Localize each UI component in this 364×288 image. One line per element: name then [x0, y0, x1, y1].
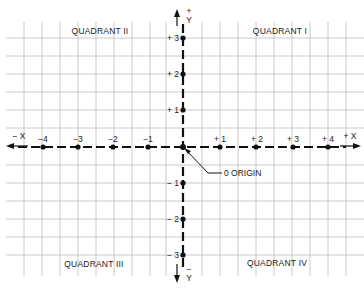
y-tick-label: + 3 [167, 33, 179, 43]
y-positive-label: Y [186, 15, 192, 25]
y-tick-label: + 2 [167, 69, 179, 79]
x-negative-arrow-icon [6, 143, 14, 149]
y-negative-label: Y [186, 273, 192, 283]
x-tick-label: −1 [143, 134, 153, 144]
quadrant-iv-label: QUADRANT IV [247, 258, 307, 268]
x-tick-label: + 1 [214, 134, 226, 144]
y-tick-label: − 1 [167, 178, 179, 188]
x-tick-label: + 3 [287, 134, 299, 144]
x-positive-label: + X [344, 131, 357, 141]
origin-pointer-arrow-icon [184, 148, 191, 154]
quadrant-iii-label: QUADRANT III [64, 259, 123, 269]
x-tick-label: + 4 [322, 134, 334, 144]
y-tick-label: − 3 [167, 250, 179, 260]
quadrant-ii-label: QUADRANT II [72, 26, 129, 36]
coordinate-plane-diagram: 0 ORIGIN −4 −3 −2 −1 + 1 + 2 + 3 + 4 − X… [0, 0, 364, 288]
y-tick-label: − 2 [167, 214, 179, 224]
quadrant-i-label: QUADRANT I [253, 26, 307, 36]
x-tick-label: −4 [38, 134, 48, 144]
x-negative-label: − X [13, 131, 26, 141]
origin-label: 0 ORIGIN [224, 168, 261, 178]
x-tick-label: −3 [73, 134, 83, 144]
x-tick-label: −2 [108, 134, 118, 144]
x-tick-labels: −4 −3 −2 −1 + 1 + 2 + 3 + 4 [38, 134, 334, 144]
y-negative-arrow-icon [174, 275, 180, 283]
x-positive-arrow-icon [353, 143, 361, 149]
y-positive-arrow-icon [174, 9, 180, 17]
x-tick-label: + 2 [251, 134, 263, 144]
y-tick-label: + 1 [167, 105, 179, 115]
